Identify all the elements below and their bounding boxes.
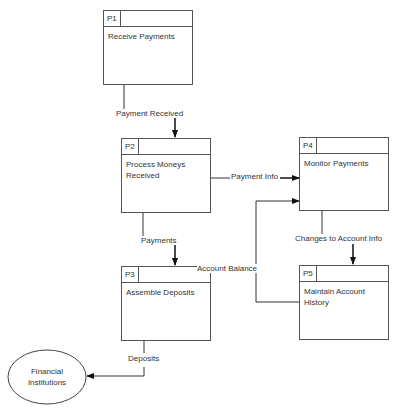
process-name-line: Maintain Account: [304, 286, 384, 297]
process-name: Receive Payments: [104, 27, 192, 46]
process-header: P2: [122, 139, 210, 155]
process-p5[interactable]: P5 Maintain Account History: [299, 265, 389, 340]
flow-label-changes-to-account-info: Changes to Account Info: [295, 234, 382, 243]
flow-label-payment-received: Payment Received: [116, 109, 183, 118]
entity-name-line: Institutions: [8, 377, 86, 388]
process-name: Monitor Payments: [300, 154, 388, 173]
process-p3[interactable]: P3 Assemble Deposits: [121, 266, 211, 341]
entity-name-line: Financial: [8, 366, 86, 377]
process-id: P3: [122, 267, 139, 282]
process-p1[interactable]: P1 Receive Payments: [103, 10, 193, 85]
flow-label-payments: Payments: [141, 236, 177, 245]
process-name-line: Process Moneys: [126, 159, 206, 170]
process-header: P1: [104, 11, 192, 27]
process-name: Maintain Account History: [300, 282, 388, 312]
process-p4[interactable]: P4 Monitor Payments: [299, 137, 389, 211]
process-name-line: History: [304, 297, 384, 308]
flow-label-deposits: Deposits: [128, 354, 159, 363]
external-entity-financial-institutions[interactable]: Financial Institutions: [8, 366, 86, 388]
process-header: P4: [300, 138, 388, 154]
flow-label-account-balance: Account Balance: [197, 264, 257, 273]
process-id: P2: [122, 139, 139, 154]
process-name: Assemble Deposits: [122, 283, 210, 302]
process-id: P4: [300, 138, 317, 153]
process-id: P5: [300, 266, 317, 281]
flow-label-payment-info: Payment Info: [231, 172, 278, 181]
process-p2[interactable]: P2 Process Moneys Received: [121, 138, 211, 213]
process-id: P1: [104, 11, 121, 26]
process-name: Process Moneys Received: [122, 155, 210, 185]
process-name-line: Received: [126, 170, 206, 181]
process-header: P5: [300, 266, 388, 282]
